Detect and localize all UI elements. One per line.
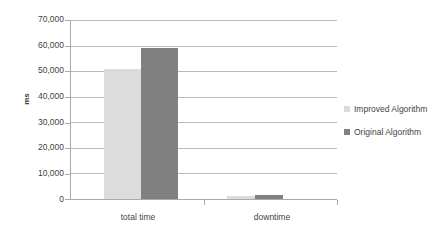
x-tick-mark xyxy=(204,200,205,205)
legend-item-improved-algorithm: Improved Algorithm xyxy=(344,101,445,117)
legend-item-original-algorithm: Original Algorithm xyxy=(344,124,445,140)
y-tick-label: 70,000 xyxy=(8,15,64,24)
x-category-label-total-time: total time xyxy=(88,212,188,222)
legend-label: Original Algorithm xyxy=(354,127,421,137)
legend-swatch-icon xyxy=(344,106,350,112)
chart-legend: Improved Algorithm Original Algorithm xyxy=(344,101,445,147)
y-axis-tick-labels: 70,000 60,000 50,000 40,000 30,000 20,00… xyxy=(4,0,64,246)
y-tick-label: 0 xyxy=(8,195,64,204)
y-tick-label: 50,000 xyxy=(8,66,64,75)
y-tick-label: 60,000 xyxy=(8,41,64,50)
y-tick-label: 20,000 xyxy=(8,143,64,152)
y-tick-label: 10,000 xyxy=(8,169,64,178)
x-category-label-downtime: downtime xyxy=(222,212,322,222)
bar-original-total-time xyxy=(141,48,178,199)
x-tick-mark xyxy=(337,200,338,205)
gridline-60000 xyxy=(71,46,337,47)
gridline-70000 xyxy=(71,20,337,21)
legend-swatch-icon xyxy=(344,129,350,135)
y-tick-label: 30,000 xyxy=(8,118,64,127)
y-tick-label: 40,000 xyxy=(8,92,64,101)
bar-chart-figure: ms 70,000 60,000 50,000 40,000 30,000 20… xyxy=(0,0,445,246)
plot-area xyxy=(71,20,337,199)
legend-label: Improved Algorithm xyxy=(354,104,427,114)
bar-improved-total-time xyxy=(104,69,141,199)
